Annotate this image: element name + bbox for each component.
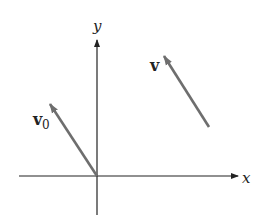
vector-diagram: x y v 0 v — [0, 0, 260, 215]
x-axis-label: x — [242, 169, 251, 187]
y-axis-label: y — [92, 17, 102, 35]
vector-v-label: v — [149, 56, 160, 75]
vector-v0-subscript: 0 — [42, 118, 50, 132]
vector-v — [164, 56, 209, 127]
vector-v0 — [50, 104, 97, 176]
